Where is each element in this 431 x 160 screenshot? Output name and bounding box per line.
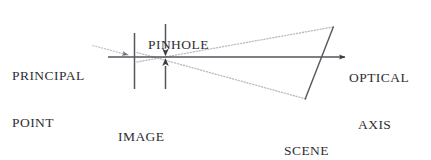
scene-object-line [305, 27, 334, 100]
principal-point-leader-line [93, 46, 128, 56]
principal-point-pointer [93, 46, 128, 56]
label-scene-object: SCENE OBJECT [284, 112, 329, 160]
label-image-plane-line1: IMAGE [118, 129, 165, 145]
pinhole-camera-figure: PRINCIPAL POINT PINHOLE OPTICAL AXIS IMA… [0, 0, 431, 160]
label-pinhole-line1: PINHOLE [148, 37, 209, 53]
label-scene-object-line1: SCENE [284, 143, 329, 159]
label-pinhole: PINHOLE [148, 6, 209, 84]
label-principal-point-line1: PRINCIPAL [12, 68, 85, 84]
label-principal-point: PRINCIPAL POINT [12, 37, 85, 160]
label-image-plane: IMAGE PLANE [118, 98, 165, 160]
label-optical-axis-line2: AXIS [349, 117, 409, 133]
label-optical-axis-line1: OPTICAL [349, 70, 409, 86]
label-principal-point-line2: POINT [12, 115, 85, 131]
label-optical-axis: OPTICAL AXIS [349, 39, 409, 160]
